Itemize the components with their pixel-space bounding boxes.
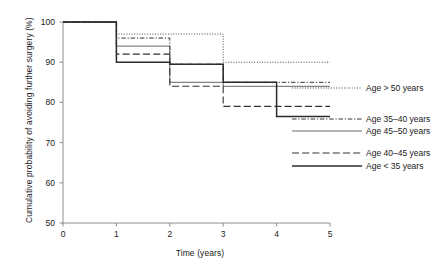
legend-label: Age < 35 years xyxy=(366,161,423,171)
legend-label: Age 35–40 years xyxy=(366,114,430,124)
legend-label: Age 45–50 years xyxy=(366,126,430,136)
legend-label: Age > 50 years xyxy=(366,83,423,93)
chart-container: Cumulative probability of avoiding furth… xyxy=(0,0,448,274)
plot-area xyxy=(0,0,448,274)
series-line xyxy=(63,22,330,62)
series-line xyxy=(63,22,330,86)
series-line xyxy=(63,22,330,82)
legend-label: Age 40–45 years xyxy=(366,148,430,158)
series-line xyxy=(63,22,330,116)
